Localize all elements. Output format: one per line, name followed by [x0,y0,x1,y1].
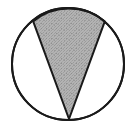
geometry-figure-svg [0,0,136,131]
figure-canvas [0,0,136,131]
